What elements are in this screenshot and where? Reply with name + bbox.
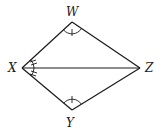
angle-mark-y bbox=[64, 96, 82, 104]
vertex-label-y: Y bbox=[66, 116, 75, 130]
vertex-label-x: X bbox=[7, 61, 17, 75]
segment-wz bbox=[72, 22, 140, 68]
kite-diagram: W X Z Y bbox=[0, 0, 163, 133]
vertex-label-z: Z bbox=[144, 61, 154, 75]
segment-xy bbox=[22, 68, 72, 110]
segment-xw bbox=[22, 22, 72, 68]
segment-yz bbox=[72, 68, 140, 110]
vertex-label-w: W bbox=[66, 5, 80, 19]
angle-mark-w bbox=[64, 28, 82, 36]
